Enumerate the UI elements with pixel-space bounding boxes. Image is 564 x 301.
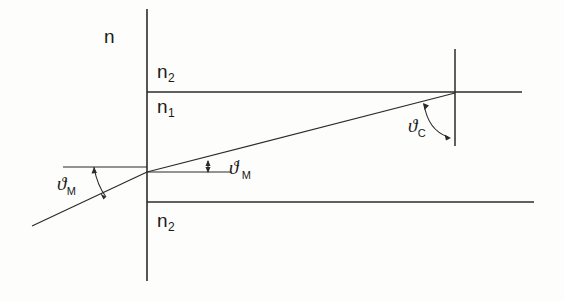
internal-angle-subscript: M bbox=[242, 169, 251, 181]
theta-m-prime-arrowhead-top bbox=[206, 160, 211, 166]
critical-angle-symbol: ϑ bbox=[408, 115, 417, 136]
acceptance-angle-symbol: ϑ bbox=[57, 173, 66, 194]
lower-cladding-index-label: n2 bbox=[157, 211, 174, 230]
lower-cladding-index-base: n bbox=[157, 210, 168, 231]
lower-cladding-index-subscript: 2 bbox=[168, 220, 175, 234]
upper-cladding-index-subscript: 2 bbox=[168, 71, 175, 85]
theta-c-angle-arc bbox=[424, 104, 448, 137]
internal-angle-prime-mark: ′ bbox=[237, 156, 240, 171]
index-axis-label-text: n bbox=[104, 26, 115, 47]
critical-angle-subscript: C bbox=[418, 127, 426, 139]
acceptance-angle-subscript: M bbox=[67, 185, 76, 197]
upper-cladding-index-label: n2 bbox=[157, 62, 174, 81]
acceptance-angle-label: ϑM bbox=[57, 174, 76, 193]
index-axis-label: n bbox=[104, 27, 115, 46]
critical-angle-label: ϑC bbox=[408, 116, 425, 135]
core-index-base: n bbox=[157, 96, 168, 117]
incident-ray-line bbox=[32, 172, 147, 226]
core-index-subscript: 1 bbox=[168, 106, 175, 120]
theta-c-arrowhead-start bbox=[423, 103, 429, 110]
core-index-label: n1 bbox=[157, 97, 174, 116]
upper-cladding-index-base: n bbox=[157, 61, 168, 82]
theta-m-arrowhead-top bbox=[92, 167, 98, 174]
internal-angle-label: ϑ′M bbox=[229, 158, 250, 177]
ray-diagram-svg bbox=[0, 0, 564, 301]
theta-c-arrowhead-end bbox=[445, 135, 452, 141]
theta-m-arrowhead-bottom bbox=[101, 194, 107, 200]
figure-canvas: n n2 n1 n2 ϑM ϑ′M ϑC bbox=[0, 0, 564, 301]
